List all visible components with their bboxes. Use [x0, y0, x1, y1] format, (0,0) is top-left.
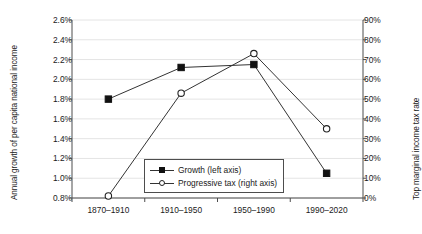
filled-square-icon	[149, 164, 175, 176]
data-point-marker	[178, 64, 184, 70]
open-circle-icon	[149, 177, 175, 189]
data-point-marker	[251, 61, 257, 67]
data-point-marker	[178, 90, 184, 96]
chart-legend: Growth (left axis)Progressive tax (right…	[144, 159, 284, 193]
legend-label: Progressive tax (right axis)	[175, 178, 277, 188]
chart-container: Annual growth of per capita national inc…	[0, 0, 422, 234]
legend-item: Progressive tax (right axis)	[149, 176, 277, 189]
data-point-marker	[323, 170, 329, 176]
plot-area	[0, 0, 422, 234]
legend-item: Growth (left axis)	[149, 163, 277, 176]
data-point-marker	[105, 96, 111, 102]
data-point-marker	[251, 50, 257, 56]
legend-label: Growth (left axis)	[175, 165, 241, 175]
data-point-marker	[323, 126, 329, 132]
data-point-marker	[105, 193, 111, 199]
